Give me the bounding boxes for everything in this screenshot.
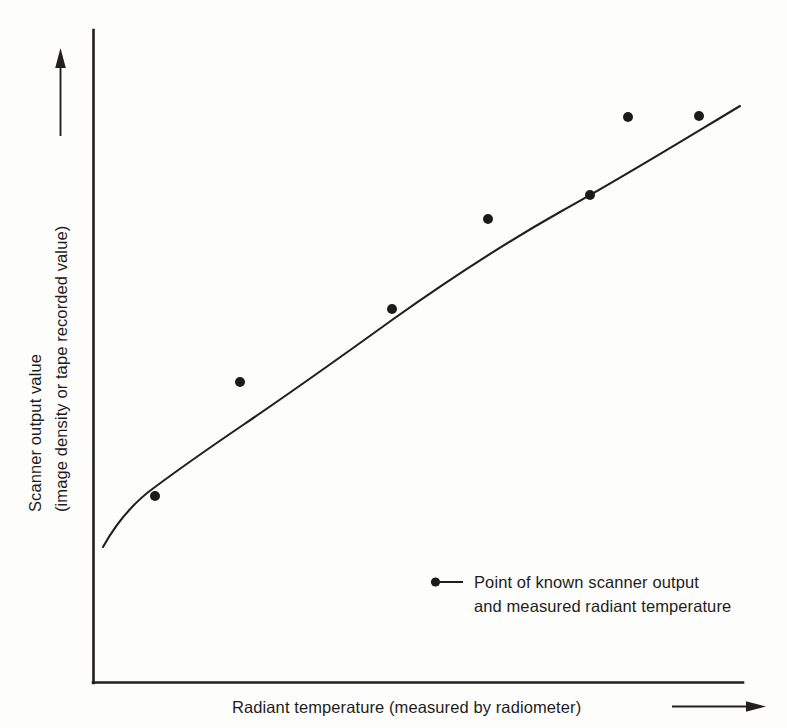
- legend-label-line-1: Point of known scanner output: [474, 570, 731, 594]
- figure-canvas: Scanner output value (image density or t…: [0, 0, 787, 728]
- data-point: [483, 214, 493, 224]
- y-axis-direction-arrow: [55, 48, 66, 136]
- legend-label-line-2: and measured radiant temperature: [474, 594, 731, 618]
- fitted-curve: [103, 106, 740, 547]
- x-axis-label-text: Radiant temperature (measured by radiome…: [232, 698, 581, 717]
- data-point: [694, 111, 704, 121]
- data-points-group: [150, 111, 704, 501]
- legend: Point of known scanner output and measur…: [430, 570, 731, 618]
- x-axis-label: Radiant temperature (measured by radiome…: [232, 698, 581, 717]
- legend-text: Point of known scanner output and measur…: [474, 570, 731, 618]
- data-point: [235, 377, 245, 387]
- data-point: [387, 304, 397, 314]
- plot-area: [0, 0, 787, 728]
- point-marker-icon: [430, 570, 465, 594]
- data-point: [585, 190, 595, 200]
- x-axis-direction-arrow: [672, 701, 766, 712]
- data-point: [150, 491, 160, 501]
- data-point: [623, 112, 633, 122]
